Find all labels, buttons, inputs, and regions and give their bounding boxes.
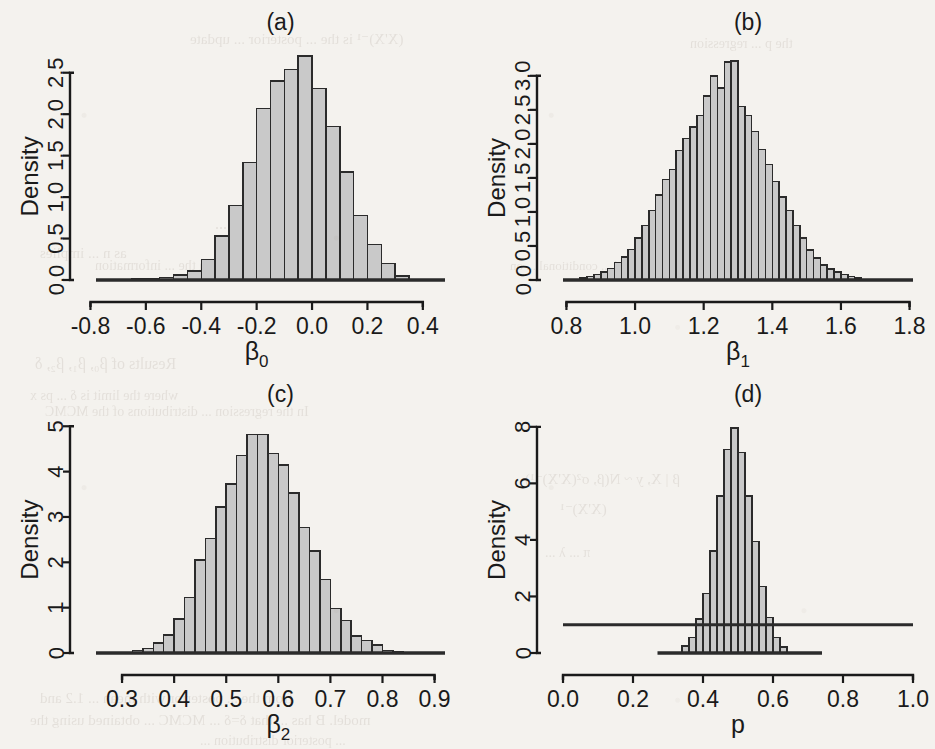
x-axis-title: β2 (266, 710, 290, 744)
histogram-bar (312, 88, 326, 280)
x-axis-line (563, 675, 913, 680)
histogram-bar (247, 434, 257, 653)
panel-title: (b) (734, 9, 762, 35)
histogram-bar (362, 640, 372, 653)
histogram-bar (697, 115, 704, 280)
y-axis-tick-label: 1.0 (511, 197, 536, 228)
x-axis-tick-label: 1.0 (619, 313, 651, 339)
panel-a-svg: (a)0.00.51.01.52.02.5Density-0.8-0.6-0.4… (0, 0, 467, 372)
x-axis-tick-label: 0.7 (314, 686, 346, 712)
histogram-bar (800, 238, 807, 280)
x-axis-tick-label: 1.6 (825, 313, 857, 339)
x-axis-tick-label: -0.4 (181, 313, 221, 339)
y-axis-tick-label: 2 (511, 590, 536, 602)
y-axis-tick-label: 0.0 (44, 265, 69, 296)
panel-b: (b)0.00.51.01.52.02.53.0Density0.81.01.2… (467, 0, 935, 372)
panel-title: (c) (267, 381, 294, 407)
histogram-bar (174, 619, 184, 653)
histogram-bar (711, 76, 718, 280)
histogram-bar (765, 164, 772, 280)
histogram-bar (271, 81, 285, 280)
x-axis-tick-label: 1.4 (756, 313, 788, 339)
histogram-bar (779, 197, 786, 280)
x-axis-tick-label: 0.4 (158, 686, 190, 712)
y-axis-tick-label: 0.5 (44, 223, 69, 254)
x-axis-tick-label: 1.8 (894, 313, 926, 339)
panel-a: (a)0.00.51.01.52.02.5Density-0.8-0.6-0.4… (0, 0, 467, 372)
histogram-bars (682, 428, 787, 653)
y-axis-tick-label: 2 (44, 556, 69, 568)
histogram-bar (205, 539, 215, 653)
y-axis-tick-label: 1.0 (44, 182, 69, 213)
y-axis-tick-label: 2.0 (44, 99, 69, 130)
panel-title: (a) (266, 9, 294, 35)
histogram-bar (724, 62, 731, 280)
histogram-bar (299, 527, 309, 653)
histogram-bar (381, 263, 395, 280)
histogram-bar (268, 453, 278, 653)
histogram-bar (201, 259, 215, 280)
histogram-bar (738, 106, 745, 280)
y-axis-tick-label: 0 (44, 647, 69, 659)
y-axis-tick-label: 0.5 (511, 231, 536, 262)
histogram-bar (717, 496, 724, 653)
histogram-bar (237, 456, 247, 653)
x-axis-tick-label: 0.4 (687, 686, 719, 712)
histogram-bar (215, 236, 229, 280)
histogram-bar (278, 465, 288, 653)
histogram-bar (298, 56, 312, 280)
x-axis-tick-label: 0.5 (210, 686, 242, 712)
y-axis-line (70, 426, 74, 653)
histogram-bar (257, 108, 271, 280)
histogram-bar (185, 598, 195, 653)
histogram-bar (608, 268, 615, 280)
y-axis-tick-label: 4 (511, 534, 536, 546)
histogram-bar (341, 620, 351, 653)
y-axis-tick-label: 1 (44, 602, 69, 614)
histogram-bar (367, 244, 381, 280)
histogram-bar (745, 115, 752, 280)
histogram-bar (649, 211, 656, 280)
histogram-bar (354, 215, 368, 280)
histogram-bar (330, 609, 340, 653)
y-axis-tick-label: 2.0 (511, 129, 536, 160)
y-axis-tick-label: 6 (511, 477, 536, 489)
y-axis-tick-label: 8 (511, 421, 536, 433)
histogram-bar (704, 96, 711, 280)
histogram-bar (766, 618, 773, 653)
histogram-bar (642, 226, 649, 280)
x-axis-tick-label: 0.3 (106, 686, 138, 712)
y-axis-title: Density (17, 500, 44, 580)
histogram-bar (326, 127, 340, 280)
histogram-bar (310, 551, 320, 653)
x-axis-tick-label: -0.6 (126, 313, 166, 339)
x-axis-tick-label: 0.4 (407, 313, 439, 339)
y-axis-tick-label: 2.5 (511, 95, 536, 126)
histogram-bar (635, 238, 642, 280)
histogram-bar (257, 434, 267, 653)
histogram-bar (656, 195, 663, 280)
panel-b-svg: (b)0.00.51.01.52.02.53.0Density0.81.01.2… (467, 0, 935, 372)
histogram-bars (132, 434, 403, 653)
histogram-bar (772, 181, 779, 280)
histogram-bar (614, 262, 621, 280)
x-axis-tick-label: 1.2 (688, 313, 720, 339)
histogram-bar (663, 179, 670, 280)
x-axis-tick-label: 0.6 (757, 686, 789, 712)
histogram-bar (731, 61, 738, 280)
histogram-bar (745, 496, 752, 653)
histogram-bar (284, 69, 298, 280)
histogram-bar (752, 541, 759, 653)
histogram-bar (690, 127, 697, 280)
histogram-bar (226, 484, 236, 653)
histogram-bar (813, 258, 820, 280)
histogram-bar (752, 132, 759, 280)
y-axis-tick-label: 5 (44, 420, 69, 432)
histogram-bar (243, 162, 257, 280)
x-axis-tick-label: 0.8 (550, 313, 582, 339)
y-axis-tick-label: 1.5 (511, 163, 536, 194)
histogram-bar (164, 635, 174, 653)
y-axis-title: Density (484, 138, 511, 218)
histogram-bar (289, 493, 299, 653)
